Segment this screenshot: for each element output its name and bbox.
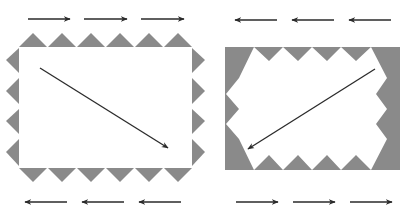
diagram-stage	[0, 0, 414, 212]
right-panel-interior	[226, 47, 387, 170]
left-panel	[19, 47, 192, 168]
right-figure	[225, 20, 400, 202]
left-figure	[6, 19, 205, 202]
shear-diagram	[0, 0, 414, 212]
